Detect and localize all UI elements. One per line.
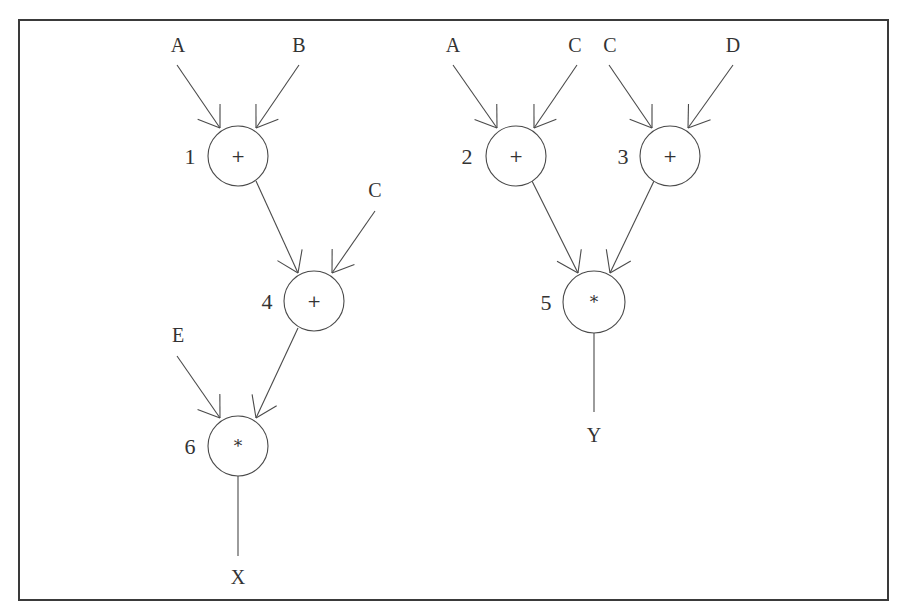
edge-line — [177, 356, 220, 418]
nodes-group: +1+2+3+4*5*6 — [185, 126, 701, 476]
edge-line — [332, 211, 375, 273]
node-6: *6 — [185, 416, 269, 476]
node-id-label: 1 — [185, 144, 196, 169]
edge-4-to-6 — [252, 328, 298, 418]
input-variable-C: C — [568, 34, 581, 56]
edge-E-to-6 — [177, 356, 220, 418]
input-variable-A: A — [171, 34, 186, 56]
add-operator: + — [509, 146, 523, 166]
node-id-label: 2 — [462, 144, 473, 169]
input-variable-E: E — [172, 324, 184, 346]
edge-line — [177, 65, 220, 128]
arrowhead-barb — [298, 249, 302, 273]
edge-C-to-2 — [534, 65, 577, 128]
edge-line — [453, 65, 497, 128]
output-variable-X: X — [231, 566, 246, 588]
edge-C-to-3 — [609, 65, 652, 128]
add-operator: + — [663, 146, 677, 166]
dataflow-diagram: +1+2+3+4*5*6 ABCEACCD XY — [0, 0, 904, 609]
add-operator: + — [307, 291, 321, 311]
edge-2-to-5 — [532, 181, 581, 273]
node-2: +2 — [462, 126, 547, 186]
output-lines-group — [238, 333, 594, 556]
input-variable-C: C — [368, 179, 381, 201]
edge-line — [256, 65, 299, 128]
input-variable-A: A — [446, 34, 461, 56]
node-id-label: 5 — [541, 290, 552, 315]
input-variable-B: B — [292, 34, 305, 56]
edge-line — [688, 65, 733, 128]
input-variable-D: D — [726, 34, 740, 56]
add-operator: + — [231, 146, 245, 166]
edge-A-to-1 — [177, 65, 220, 128]
arrowhead-barb — [252, 394, 256, 418]
output-variable-Y: Y — [587, 424, 601, 446]
node-id-label: 4 — [262, 289, 273, 314]
edge-3-to-5 — [606, 181, 654, 273]
node-4: +4 — [262, 271, 345, 331]
edge-line — [534, 65, 577, 128]
edges-group — [177, 65, 733, 418]
edge-line — [610, 181, 654, 273]
node-id-label: 3 — [618, 144, 629, 169]
multiply-operator: * — [590, 292, 599, 312]
edge-A-to-2 — [453, 65, 497, 128]
arrowhead-barb — [578, 249, 581, 273]
node-1: +1 — [185, 126, 269, 186]
node-5: *5 — [541, 271, 626, 333]
outputs-group: XY — [231, 424, 601, 588]
edge-C-to-4 — [332, 211, 375, 273]
diagram-frame — [19, 20, 888, 600]
input-variable-C: C — [603, 34, 616, 56]
edge-1-to-4 — [256, 181, 302, 273]
multiply-operator: * — [234, 436, 243, 456]
inputs-group: ABCEACCD — [171, 34, 740, 346]
edge-line — [256, 328, 298, 418]
node-id-label: 6 — [185, 434, 196, 459]
edge-line — [609, 65, 652, 128]
edge-line — [532, 181, 578, 273]
edge-B-to-1 — [256, 65, 299, 128]
edge-line — [256, 181, 298, 273]
arrowhead-barb — [606, 249, 610, 273]
edge-D-to-3 — [688, 65, 733, 128]
node-3: +3 — [618, 126, 701, 186]
